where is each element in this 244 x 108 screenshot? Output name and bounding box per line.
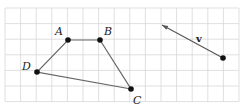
- label-b: B: [103, 25, 112, 38]
- vertex-c: [128, 86, 134, 92]
- vector-tail-point: [220, 55, 226, 61]
- arrowhead-icon: [162, 25, 168, 30]
- label-a: A: [54, 25, 63, 38]
- vertex-d: [34, 69, 40, 75]
- vertex-a: [65, 37, 71, 43]
- label-c: C: [133, 94, 142, 107]
- quadrilateral-abcd: [37, 40, 131, 89]
- diagram-canvas: A B C D v: [0, 0, 244, 108]
- vertices: [34, 37, 134, 92]
- label-d: D: [21, 60, 31, 73]
- label-v: v: [195, 33, 203, 44]
- vertex-b: [97, 37, 103, 43]
